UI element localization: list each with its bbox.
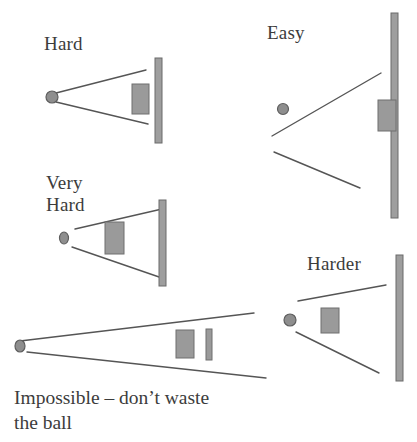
label-harder: Harder bbox=[307, 253, 361, 275]
harder-ball bbox=[284, 314, 296, 326]
very-hard-wall-bar bbox=[159, 200, 166, 286]
very-hard-ball bbox=[60, 232, 69, 244]
harder-cone-upper-line bbox=[298, 285, 386, 301]
caption-line-2: the ball bbox=[14, 410, 274, 435]
harder-wall-bar bbox=[396, 255, 403, 381]
hard-brick-block bbox=[132, 84, 149, 114]
easy-ball bbox=[278, 104, 289, 115]
label-hard: Hard bbox=[44, 33, 83, 55]
diagram-hard bbox=[46, 58, 162, 143]
diagram-impossible bbox=[15, 313, 266, 378]
caption-line-1: Impossible – don’t waste bbox=[14, 385, 274, 410]
hard-ball bbox=[46, 91, 58, 103]
figure-caption: Impossible – don’t waste the ball bbox=[14, 385, 274, 435]
breakout-difficulty-figure: Hard Easy Very Hard Harder Impossible – … bbox=[0, 0, 417, 442]
very-hard-brick-block bbox=[105, 222, 124, 254]
impossible-ball bbox=[15, 340, 25, 352]
impossible-thin-bar bbox=[206, 329, 212, 360]
label-easy: Easy bbox=[267, 22, 305, 44]
harder-cone-lower-line bbox=[296, 332, 379, 373]
easy-cone-lower-line bbox=[274, 152, 360, 188]
easy-cone-upper-line bbox=[272, 73, 381, 136]
impossible-cone-lower-line bbox=[27, 352, 266, 378]
impossible-cone-upper-line bbox=[20, 313, 254, 341]
label-very-hard: Very Hard bbox=[46, 172, 85, 216]
easy-brick-block bbox=[378, 100, 396, 131]
hard-wall-bar bbox=[155, 58, 162, 143]
harder-brick-block bbox=[321, 308, 339, 333]
impossible-brick-block bbox=[176, 330, 194, 358]
diagram-canvas bbox=[0, 0, 417, 442]
